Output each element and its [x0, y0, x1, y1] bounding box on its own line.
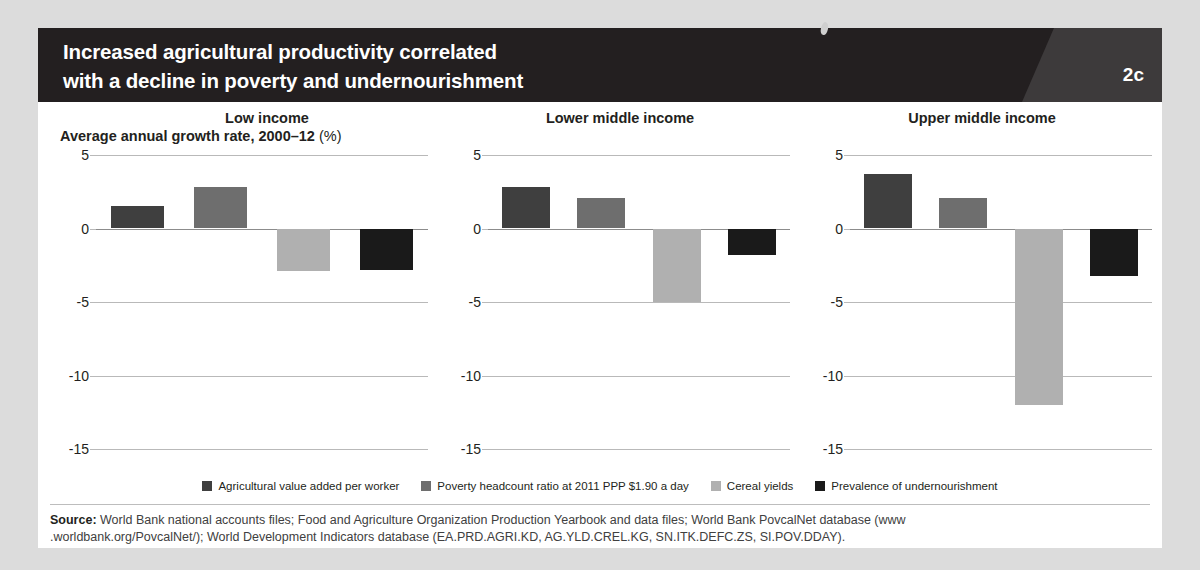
y-tick-label: 5	[473, 147, 481, 163]
gridline	[850, 155, 1152, 156]
y-tick-label: 5	[835, 147, 843, 163]
y-tick-mark	[482, 376, 488, 377]
title-line-1: Increased agricultural productivity corr…	[63, 40, 497, 63]
bar	[864, 174, 912, 228]
source-text-1: World Bank national accounts files; Food…	[97, 513, 906, 527]
gridline	[850, 302, 1152, 303]
gridline	[488, 376, 790, 377]
legend-swatch-icon	[421, 481, 431, 491]
gridline	[488, 302, 790, 303]
bar	[1015, 229, 1063, 405]
legend-label: Agricultural value added per worker	[218, 480, 399, 492]
figure-header: Increased agricultural productivity corr…	[38, 28, 1162, 102]
y-tick-mark	[90, 302, 96, 303]
figure-number-badge: 2c	[1123, 64, 1144, 86]
gridline	[850, 449, 1152, 450]
bar	[111, 206, 164, 228]
gridline	[488, 449, 790, 450]
plot-area: 50-5-10-15	[850, 155, 1152, 449]
figure-card: Increased agricultural productivity corr…	[38, 28, 1162, 548]
bar	[1090, 229, 1138, 276]
gridline	[96, 155, 428, 156]
gridline	[96, 302, 428, 303]
legend-divider	[50, 504, 1150, 505]
gridline	[488, 155, 790, 156]
plot-area: 50-5-10-15	[488, 155, 790, 449]
legend-item: Poverty headcount ratio at 2011 PPP $1.9…	[421, 480, 688, 492]
y-tick-label: -15	[823, 441, 843, 457]
y-tick-mark	[90, 376, 96, 377]
y-tick-mark	[844, 155, 850, 156]
panel-title: Low income	[48, 110, 438, 126]
legend-label: Cereal yields	[727, 480, 793, 492]
chart-panel-low-income: Low income Average annual growth rate, 2…	[48, 102, 438, 472]
legend-swatch-icon	[815, 481, 825, 491]
y-tick-label: -10	[461, 368, 481, 384]
legend-label: Prevalence of undernourishment	[831, 480, 997, 492]
source-line-2: .worldbank.org/PovcalNet/); World Develo…	[50, 529, 1154, 546]
chart-panel-lower-middle-income: Lower middle income 50-5-10-15	[440, 102, 800, 472]
panel-title: Lower middle income	[440, 110, 800, 126]
y-tick-mark	[482, 449, 488, 450]
chart-legend: Agricultural value added per workerPover…	[38, 480, 1162, 492]
gridline	[850, 376, 1152, 377]
y-tick-label: -10	[69, 368, 89, 384]
legend-item: Prevalence of undernourishment	[815, 480, 997, 492]
source-note: Source: World Bank national accounts fil…	[50, 512, 1154, 546]
y-tick-mark	[482, 302, 488, 303]
y-tick-label: 5	[81, 147, 89, 163]
legend-label: Poverty headcount ratio at 2011 PPP $1.9…	[437, 480, 688, 492]
y-tick-label: 0	[473, 221, 481, 237]
y-axis-label-text: Average annual growth rate, 2000–12	[60, 128, 315, 144]
legend-swatch-icon	[202, 481, 212, 491]
y-tick-mark	[844, 376, 850, 377]
y-tick-label: -10	[823, 368, 843, 384]
bar	[277, 229, 330, 272]
y-axis-unit: (%)	[319, 128, 342, 144]
plot-area: 50-5-10-15	[96, 155, 428, 449]
y-tick-mark	[844, 449, 850, 450]
bar	[502, 187, 550, 228]
y-tick-mark	[90, 229, 96, 230]
y-tick-label: -5	[831, 294, 843, 310]
legend-item: Agricultural value added per worker	[202, 480, 399, 492]
page-title: Increased agricultural productivity corr…	[63, 37, 923, 95]
y-tick-label: -15	[461, 441, 481, 457]
chart-panel-upper-middle-income: Upper middle income 50-5-10-15	[802, 102, 1162, 472]
y-tick-label: 0	[81, 221, 89, 237]
legend-swatch-icon	[711, 481, 721, 491]
y-tick-label: -5	[77, 294, 89, 310]
title-line-2: with a decline in poverty and undernouri…	[63, 66, 923, 95]
gridline	[96, 449, 428, 450]
y-tick-mark	[90, 155, 96, 156]
y-axis-label: Average annual growth rate, 2000–12 (%)	[60, 128, 342, 144]
y-tick-label: 0	[835, 221, 843, 237]
y-tick-mark	[482, 155, 488, 156]
gridline	[96, 376, 428, 377]
bar	[728, 229, 776, 255]
bar	[360, 229, 413, 270]
bar	[939, 198, 987, 229]
bar	[194, 187, 247, 228]
y-tick-label: -15	[69, 441, 89, 457]
y-tick-mark	[482, 229, 488, 230]
y-tick-label: -5	[469, 294, 481, 310]
legend-item: Cereal yields	[711, 480, 793, 492]
bar	[577, 198, 625, 229]
source-label: Source:	[50, 513, 97, 527]
source-line-1: Source: World Bank national accounts fil…	[50, 512, 1154, 529]
y-tick-mark	[844, 229, 850, 230]
y-tick-mark	[844, 302, 850, 303]
bar	[653, 229, 701, 303]
panel-title: Upper middle income	[802, 110, 1162, 126]
y-tick-mark	[90, 449, 96, 450]
